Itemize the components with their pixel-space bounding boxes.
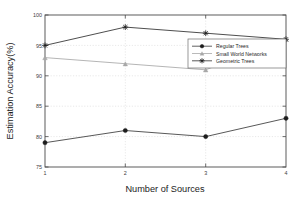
legend-marker-circle-icon xyxy=(200,44,204,48)
x-tick-marks xyxy=(125,15,205,167)
y-tick-label: 100 xyxy=(33,12,42,18)
x-axis-title: Number of Sources xyxy=(125,184,205,194)
series-regular-trees xyxy=(43,116,288,145)
y-tick-label: 95 xyxy=(36,43,42,49)
y-tick-label: 75 xyxy=(36,164,42,170)
legend-label: Small World Networks xyxy=(216,51,267,57)
x-tick-label: 1 xyxy=(44,170,47,176)
gridlines xyxy=(45,15,286,167)
x-tick-label: 4 xyxy=(285,170,288,176)
x-tick-label: 3 xyxy=(204,170,207,176)
series-markers xyxy=(43,116,288,145)
legend-marker-star-icon xyxy=(199,58,204,63)
x-tick-labels: 1 2 3 4 xyxy=(44,170,288,176)
x-tick-label: 2 xyxy=(124,170,127,176)
chart-legend[interactable]: Regular Trees Small World Networks Geome… xyxy=(188,39,286,68)
y-tick-labels: 100 95 90 85 80 75 xyxy=(33,12,42,170)
line-chart: 100 95 90 85 80 75 1 2 3 4 Number of Sou… xyxy=(0,0,305,199)
legend-label: Geometric Trees xyxy=(216,58,255,64)
y-axis-title: Estimation Accuracy(%) xyxy=(5,42,15,139)
plot-frame xyxy=(45,15,286,167)
y-tick-label: 85 xyxy=(36,103,42,109)
legend-label: Regular Trees xyxy=(216,43,249,49)
chart-figure: 100 95 90 85 80 75 1 2 3 4 Number of Sou… xyxy=(0,0,305,199)
y-tick-marks xyxy=(45,15,286,167)
y-tick-label: 90 xyxy=(36,73,42,79)
y-tick-label: 80 xyxy=(36,134,42,140)
